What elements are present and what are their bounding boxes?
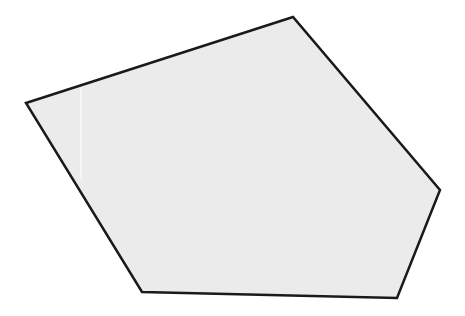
pentagon-shape xyxy=(26,17,440,298)
pentagon-diagram xyxy=(0,0,465,316)
